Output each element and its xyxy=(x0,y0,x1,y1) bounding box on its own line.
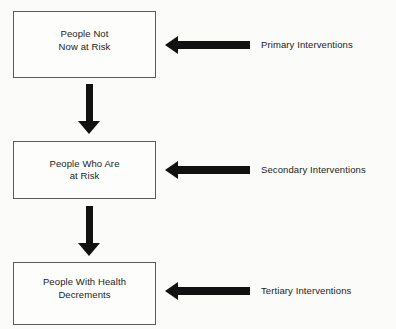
left-arrow-icon xyxy=(165,161,250,179)
node-box-people-with-health-decrements: People With Health Decrements xyxy=(13,262,156,325)
arrow-head xyxy=(78,121,100,134)
diagram-canvas: People Not Now at Risk People Who Are at… xyxy=(0,0,396,329)
left-arrow-icon xyxy=(165,282,250,300)
node-box-people-not-now-at-risk: People Not Now at Risk xyxy=(13,11,156,78)
arrow-shaft xyxy=(176,287,250,295)
arrow-shaft xyxy=(176,41,250,49)
intervention-label-secondary: Secondary Interventions xyxy=(261,164,366,176)
node-box-people-who-are-at-risk: People Who Are at Risk xyxy=(13,141,156,199)
arrow-shaft xyxy=(86,84,93,122)
left-arrow-icon xyxy=(165,36,250,54)
intervention-label-tertiary: Tertiary Interventions xyxy=(261,285,351,297)
arrow-head xyxy=(165,36,178,54)
down-arrow-icon xyxy=(78,206,100,256)
intervention-label-primary: Primary Interventions xyxy=(261,39,353,51)
arrow-shaft xyxy=(176,166,250,174)
arrow-head xyxy=(165,161,178,179)
node-label: People Not Now at Risk xyxy=(59,28,111,53)
down-arrow-icon xyxy=(78,84,100,134)
arrow-head xyxy=(78,243,100,256)
node-label: People Who Are at Risk xyxy=(49,158,119,183)
arrow-head xyxy=(165,282,178,300)
node-label: People With Health Decrements xyxy=(43,276,126,301)
arrow-shaft xyxy=(86,206,93,244)
